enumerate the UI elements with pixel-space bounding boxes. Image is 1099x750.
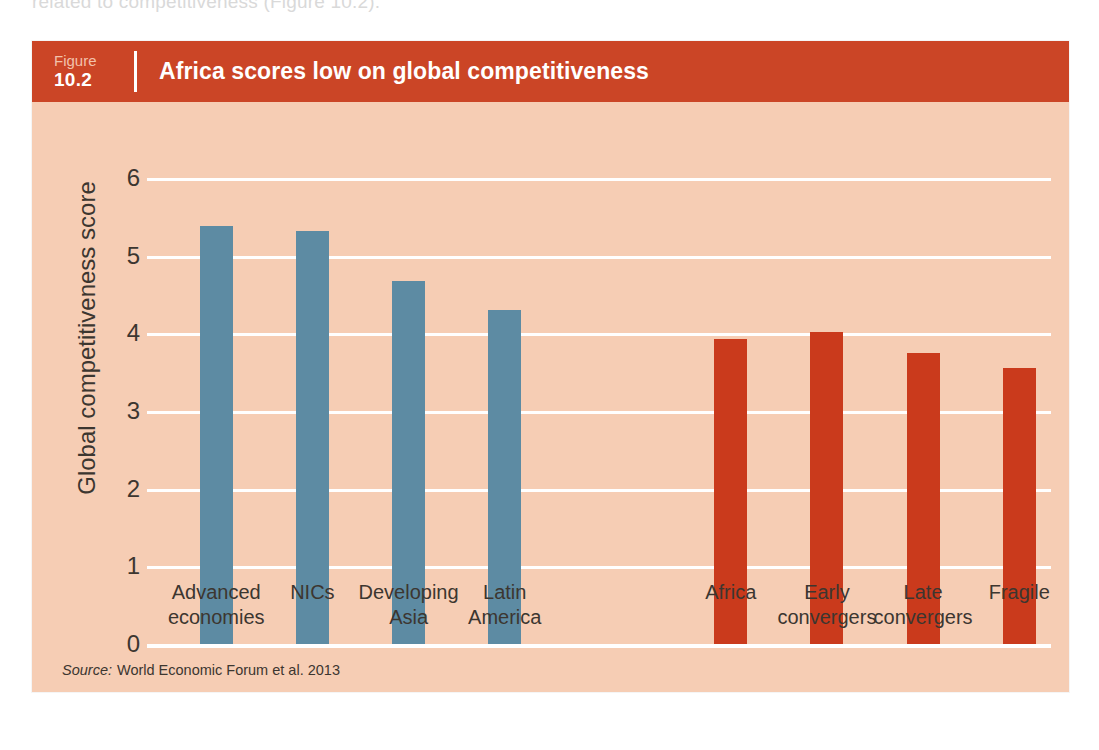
- y-axis-title: Global competitiveness score: [73, 138, 101, 538]
- y-tick-label-3: 3: [100, 397, 140, 425]
- y-tick-label-4: 4: [100, 319, 140, 347]
- x-label-line1: Fragile: [944, 580, 1094, 605]
- y-tick-label-0: 0: [100, 630, 140, 658]
- plot-area: Global competitiveness score 0123456 Adv…: [32, 102, 1069, 692]
- figure-number-block: Figure 10.2: [32, 41, 134, 102]
- figure-number-label: 10.2: [54, 69, 134, 90]
- source-note: Source:World Economic Forum et al. 2013: [62, 662, 340, 678]
- y-tick-label-2: 2: [100, 475, 140, 503]
- page-cutoff-text: related to competitiveness (Figure 10.2)…: [0, 0, 1099, 17]
- x-label-line2: America: [430, 605, 580, 630]
- figure-panel: Figure 10.2 Africa scores low on global …: [32, 41, 1069, 692]
- y-axis-tick-labels: 0123456: [100, 102, 140, 692]
- source-label: Source:: [62, 662, 112, 678]
- x-label-line2: economies: [141, 605, 291, 630]
- y-tick-label-6: 6: [100, 164, 140, 192]
- y-tick-label-1: 1: [100, 552, 140, 580]
- x-axis-category-labels: AdvancedeconomiesNICsDevelopingAsiaLatin…: [147, 580, 1051, 650]
- figure-title: Africa scores low on global competitiven…: [137, 41, 1069, 102]
- figure-header-band: Figure 10.2 Africa scores low on global …: [32, 41, 1069, 102]
- x-axis-label-fragile: Fragile: [944, 580, 1094, 605]
- x-label-line1: Latin: [430, 580, 580, 605]
- x-label-line2: convergers: [848, 605, 998, 630]
- y-tick-label-5: 5: [100, 242, 140, 270]
- x-axis-label-latin-america: LatinAmerica: [430, 580, 580, 630]
- figure-word-label: Figure: [54, 53, 134, 69]
- source-text: World Economic Forum et al. 2013: [117, 662, 340, 678]
